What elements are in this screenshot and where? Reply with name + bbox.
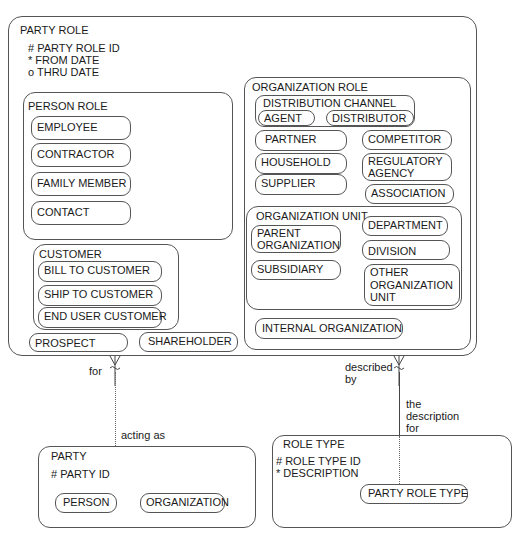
role-type-title: ROLE TYPE <box>283 438 345 451</box>
family-member-subtype[interactable]: FAMILY MEMBER <box>31 172 131 196</box>
relationship-label-for: for <box>89 365 102 378</box>
distributor-subtype[interactable]: DISTRIBUTOR <box>326 110 414 126</box>
organization-unit-title: ORGANIZATION UNIT <box>256 210 368 223</box>
regulatory-agency-subtype[interactable]: REGULATORY AGENCY <box>362 153 452 181</box>
party-title: PARTY <box>51 450 87 463</box>
party-role-attr-thru: o THRU DATE <box>28 66 99 78</box>
party-role-title: PARTY ROLE <box>20 24 88 37</box>
department-subtype[interactable]: DEPARTMENT <box>362 216 448 236</box>
organization-subtype[interactable]: ORGANIZATION <box>140 493 225 513</box>
supplier-subtype[interactable]: SUPPLIER <box>255 174 347 195</box>
role-type-relationship-line-solid[interactable] <box>399 372 400 436</box>
prospect-subtype[interactable]: PROSPECT <box>29 333 128 352</box>
shareholder-subtype[interactable]: SHAREHOLDER <box>139 332 238 352</box>
agent-subtype[interactable]: AGENT <box>258 110 315 126</box>
person-role-title: PERSON ROLE <box>28 100 107 113</box>
party-attr-id: # PARTY ID <box>51 468 110 480</box>
contractor-subtype[interactable]: CONTRACTOR <box>31 143 131 167</box>
ship-to-customer-subtype[interactable]: SHIP TO CUSTOMER <box>38 285 162 306</box>
other-organization-unit-subtype[interactable]: OTHER ORGANIZATION UNIT <box>364 264 460 306</box>
partner-subtype[interactable]: PARTNER <box>255 130 347 151</box>
party-role-attr-id: # PARTY ROLE ID <box>28 42 120 54</box>
relationship-label-description-for: the description for <box>406 398 468 434</box>
person-subtype[interactable]: PERSON <box>55 493 117 513</box>
competitor-subtype[interactable]: COMPETITOR <box>362 130 452 150</box>
party-role-attr-from: * FROM DATE <box>28 54 99 66</box>
distribution-channel-title: DISTRIBUTION CHANNEL <box>263 97 396 110</box>
contact-subtype[interactable]: CONTACT <box>31 201 131 225</box>
household-subtype[interactable]: HOUSEHOLD <box>255 153 347 174</box>
parent-organization-subtype[interactable]: PARENT ORGANIZATION <box>251 225 341 253</box>
customer-title: CUSTOMER <box>39 248 102 261</box>
employee-subtype[interactable]: EMPLOYEE <box>31 116 131 140</box>
party-role-type-subtype[interactable]: PARTY ROLE TYPE <box>360 484 468 504</box>
end-user-customer-subtype[interactable]: END USER CUSTOMER <box>38 307 162 328</box>
role-type-attr-description: * DESCRIPTION <box>276 467 359 479</box>
organization-role-title: ORGANIZATION ROLE <box>252 81 368 94</box>
bill-to-customer-subtype[interactable]: BILL TO CUSTOMER <box>38 261 162 282</box>
association-subtype[interactable]: ASSOCIATION <box>365 184 454 204</box>
role-type-attr-id: # ROLE TYPE ID <box>276 455 361 467</box>
party-relationship-line[interactable] <box>115 372 116 446</box>
internal-organization-subtype[interactable]: INTERNAL ORGANIZATION <box>255 318 403 339</box>
relationship-label-described-by: described by <box>345 361 395 385</box>
division-subtype[interactable]: DIVISION <box>362 240 450 260</box>
relationship-label-acting-as: acting as <box>121 429 165 442</box>
subsidiary-subtype[interactable]: SUBSIDIARY <box>251 260 341 280</box>
